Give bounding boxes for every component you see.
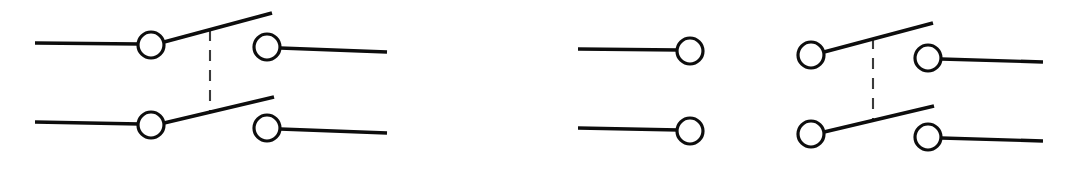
pole-bottom[interactable] — [798, 106, 1043, 150]
double-pole-switch-left[interactable] — [35, 13, 387, 141]
lead-out-wire — [280, 48, 387, 52]
double-pole-switch-right[interactable] — [578, 23, 1043, 150]
pivot-terminal-circle[interactable] — [138, 32, 164, 58]
lead-in-wire — [578, 128, 679, 130]
lead-out-wire — [941, 138, 1043, 141]
lead-in-wire — [35, 43, 140, 44]
pole-top[interactable] — [798, 23, 1043, 71]
contact-terminal-circle[interactable] — [915, 45, 941, 71]
pivot-terminal-circle[interactable] — [798, 121, 824, 147]
pivot-terminal-circle[interactable] — [138, 112, 164, 138]
contact-terminal-circle[interactable] — [254, 34, 280, 60]
open-pole-top[interactable] — [578, 38, 703, 64]
pole-bottom[interactable] — [35, 97, 387, 141]
schematic-drawing — [0, 0, 1069, 169]
contact-terminal-circle[interactable] — [915, 124, 941, 150]
contact-terminal-circle[interactable] — [254, 115, 280, 141]
terminal-circle[interactable] — [677, 118, 703, 144]
lead-in-wire — [578, 49, 679, 50]
switch-lever-arm[interactable] — [824, 23, 933, 52]
open-pole-bottom[interactable] — [578, 118, 703, 144]
lead-in-wire — [35, 122, 140, 124]
schematic-canvas — [0, 0, 1069, 169]
lead-out-wire — [941, 59, 1043, 62]
pivot-terminal-circle[interactable] — [798, 42, 824, 68]
lead-out-wire — [280, 129, 387, 133]
terminal-circle[interactable] — [677, 38, 703, 64]
